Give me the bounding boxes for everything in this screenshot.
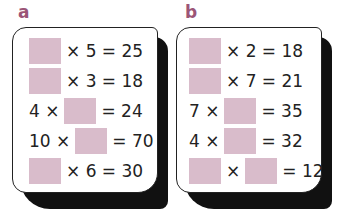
panel-a-label: a <box>18 4 29 21</box>
equation-row: 10 × = 70 <box>29 126 154 156</box>
answer-box[interactable] <box>29 158 61 184</box>
equation-text: × 6 = 30 <box>66 161 143 181</box>
answer-box[interactable] <box>189 68 221 94</box>
equation-text: 4 × <box>29 101 59 121</box>
equation-text: × <box>226 161 240 181</box>
equation-row: × 7 = 21 <box>189 66 308 96</box>
answer-box[interactable] <box>29 38 61 64</box>
equation-text: = 32 <box>261 131 302 151</box>
equation-row: × 6 = 30 <box>29 156 148 186</box>
answer-box[interactable] <box>224 98 256 124</box>
answer-box[interactable] <box>245 158 277 184</box>
equation-text: = 12 <box>282 161 323 181</box>
equation-text: 10 × <box>29 131 70 151</box>
equation-text: 7 × <box>189 101 219 121</box>
answer-box[interactable] <box>29 68 61 94</box>
panel-b-card: × 2 = 18 × 7 = 21 7 × = 35 4 × = 32 × = … <box>176 27 324 197</box>
worksheet-b: × 2 = 18 × 7 = 21 7 × = 35 4 × = 32 × = … <box>176 27 322 193</box>
panel-b-label: b <box>185 4 197 21</box>
worksheet-a: × 5 = 25 × 3 = 18 4 × = 24 10 × = 70 × 6… <box>12 27 158 193</box>
equation-row: × = 12 <box>189 156 329 186</box>
equation-text: × 2 = 18 <box>226 41 303 61</box>
equation-text: 4 × <box>189 131 219 151</box>
equation-text: = 24 <box>101 101 142 121</box>
answer-box[interactable] <box>75 128 107 154</box>
panel-a-card: × 5 = 25 × 3 = 18 4 × = 24 10 × = 70 × 6… <box>12 27 160 197</box>
equation-row: × 5 = 25 <box>29 36 148 66</box>
answer-box[interactable] <box>189 38 221 64</box>
equation-row: × 3 = 18 <box>29 66 148 96</box>
answer-box[interactable] <box>64 98 96 124</box>
equation-text: = 35 <box>261 101 302 121</box>
equation-row: × 2 = 18 <box>189 36 308 66</box>
answer-box[interactable] <box>189 158 221 184</box>
answer-box[interactable] <box>224 128 256 154</box>
equation-text: × 7 = 21 <box>226 71 303 91</box>
equation-text: × 5 = 25 <box>66 41 143 61</box>
equation-text: × 3 = 18 <box>66 71 143 91</box>
equation-row: 4 × = 24 <box>29 96 143 126</box>
equation-text: = 70 <box>112 131 153 151</box>
equation-row: 7 × = 35 <box>189 96 303 126</box>
equation-row: 4 × = 32 <box>189 126 303 156</box>
